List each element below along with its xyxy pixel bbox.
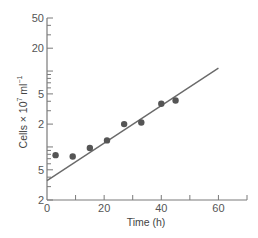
growth-chart: 50205252 0204060 Time (h) Cells × 107 ml… (0, 0, 258, 238)
y-tick-label: 50 (32, 12, 44, 24)
y-tick-label: 5 (38, 164, 44, 176)
data-point (104, 137, 110, 143)
x-tick-label: 20 (98, 202, 110, 214)
data-point (52, 152, 58, 158)
y-axis-title: Cells × 107 ml−1 (16, 75, 29, 148)
y-tick-label: 20 (32, 42, 44, 54)
x-tick-label: 40 (155, 202, 167, 214)
x-axis-title: Time (h) (127, 216, 166, 228)
regression-line (47, 68, 218, 180)
y-tick-label: 2 (38, 118, 44, 130)
x-tick-label: 60 (212, 202, 224, 214)
data-point (70, 153, 76, 159)
data-point (138, 119, 144, 125)
y-axis-ticks: 50205252 (32, 12, 53, 206)
y-tick-label: 5 (38, 88, 44, 100)
x-axis-ticks: 0204060 (44, 195, 247, 214)
x-tick-label: 0 (44, 202, 50, 214)
fit-line (47, 68, 218, 180)
data-points (52, 97, 178, 159)
data-point (158, 101, 164, 107)
data-point (87, 145, 93, 151)
axes (47, 18, 247, 200)
data-point (172, 97, 178, 103)
data-point (121, 121, 127, 127)
